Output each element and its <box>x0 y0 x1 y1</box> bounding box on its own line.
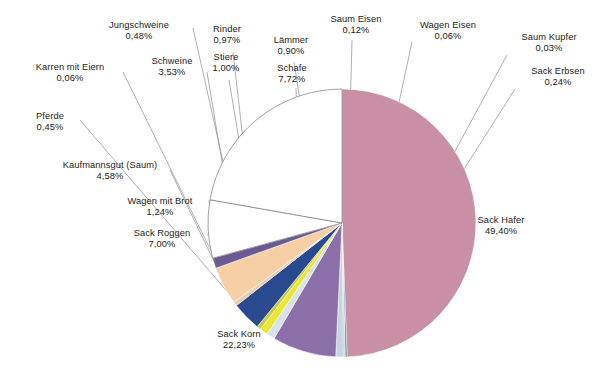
pie-label-percent: 0,24% <box>516 77 600 88</box>
pie-label-percent: 0,45% <box>22 122 78 133</box>
pie-label-percent: 0,06% <box>407 31 489 42</box>
pie-label-pferde[interactable]: Pferde 0,45% <box>22 111 78 134</box>
pie-label-percent: 4,58% <box>52 171 168 182</box>
pie-chart: Jungschweine 0,48% Rinder 0,97% Lämmer 0… <box>0 0 616 370</box>
pie-label-percent: 0,97% <box>197 35 257 46</box>
pie-slices-group <box>208 89 476 357</box>
pie-slice[interactable] <box>210 89 342 223</box>
pie-label-name: Pferde <box>22 111 78 122</box>
pie-slice[interactable] <box>342 89 476 357</box>
pie-label-percent: 1,24% <box>112 207 208 218</box>
pie-label-name: Saum Eisen <box>318 14 394 25</box>
pie-label-schweine[interactable]: Schweine 3,53% <box>138 56 206 79</box>
pie-label-percent: 22,23% <box>203 340 275 351</box>
pie-label-name: Sack Erbsen <box>516 66 600 77</box>
pie-label-percent: 0,12% <box>318 25 394 36</box>
pie-label-saum-kupfer[interactable]: Saum Kupfer 0,03% <box>508 32 590 55</box>
pie-label-percent: 7,00% <box>118 239 206 250</box>
pie-label-rinder[interactable]: Rinder 0,97% <box>197 24 257 47</box>
pie-label-name: Schafe <box>263 63 321 74</box>
pie-label-name: Sack Hafer <box>466 215 536 226</box>
pie-label-name: Schweine <box>138 56 206 67</box>
pie-label-name: Jungschweine <box>84 20 194 31</box>
pie-label-name: Wagen mit Brot <box>112 196 208 207</box>
pie-label-percent: 3,53% <box>138 67 206 78</box>
pie-label-laemmer[interactable]: Lämmer 0,90% <box>262 35 320 58</box>
pie-label-name: Saum Kupfer <box>508 32 590 43</box>
pie-label-percent: 0,90% <box>262 46 320 57</box>
pie-label-percent: 1,00% <box>197 63 255 74</box>
pie-label-name: Karren mit Eiern <box>18 62 122 73</box>
pie-label-saum-eisen[interactable]: Saum Eisen 0,12% <box>318 14 394 37</box>
pie-label-name: Sack Korn <box>203 329 275 340</box>
pie-label-sack-erbsen[interactable]: Sack Erbsen 0,24% <box>516 66 600 89</box>
pie-label-jungschweine[interactable]: Jungschweine 0,48% <box>84 20 194 43</box>
pie-label-name: Stiere <box>197 52 255 63</box>
pie-label-schafe[interactable]: Schafe 7,72% <box>263 63 321 86</box>
pie-label-wagen-eisen[interactable]: Wagen Eisen 0,06% <box>407 20 489 43</box>
pie-label-name: Wagen Eisen <box>407 20 489 31</box>
pie-label-name: Rinder <box>197 24 257 35</box>
pie-label-name: Lämmer <box>262 35 320 46</box>
pie-label-percent: 49,40% <box>466 226 536 237</box>
pie-label-kaufmannsgut[interactable]: Kaufmannsgut (Saum) 4,58% <box>52 160 168 183</box>
pie-label-wagen-mit-brot[interactable]: Wagen mit Brot 1,24% <box>112 196 208 219</box>
pie-label-name: Sack Roggen <box>118 228 206 239</box>
pie-label-percent: 7,72% <box>263 74 321 85</box>
pie-label-karren-mit-eiern[interactable]: Karren mit Eiern 0,06% <box>18 62 122 85</box>
pie-label-name: Kaufmannsgut (Saum) <box>52 160 168 171</box>
pie-label-percent: 0,48% <box>84 31 194 42</box>
pie-label-sack-hafer[interactable]: Sack Hafer 49,40% <box>466 215 536 238</box>
pie-label-sack-roggen[interactable]: Sack Roggen 7,00% <box>118 228 206 251</box>
pie-label-stiere[interactable]: Stiere 1,00% <box>197 52 255 75</box>
pie-label-percent: 0,03% <box>508 43 590 54</box>
pie-label-percent: 0,06% <box>18 73 122 84</box>
pie-label-sack-korn[interactable]: Sack Korn 22,23% <box>203 329 275 352</box>
